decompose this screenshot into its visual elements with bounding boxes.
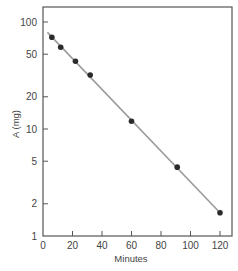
y-axis-title: A (mg) [10, 110, 21, 138]
y-tick-label: 10 [26, 124, 38, 135]
data-point [58, 45, 64, 51]
data-point [87, 72, 93, 78]
y-tick-label: 100 [20, 17, 37, 28]
x-tick-label: 20 [67, 240, 79, 251]
y-tick-label: 1 [31, 231, 37, 242]
data-point [129, 119, 135, 125]
x-tick-label: 100 [182, 240, 199, 251]
x-tick-label: 0 [40, 240, 46, 251]
y-tick-label: 50 [26, 49, 38, 60]
x-axis: 020406080100120 [40, 231, 229, 251]
x-tick-label: 40 [96, 240, 108, 251]
y-axis: 125102050100 [20, 17, 48, 242]
data-point [217, 210, 223, 216]
plot-series [47, 32, 222, 215]
plot-border [43, 7, 232, 236]
x-axis-title: Minutes [114, 253, 148, 264]
y-tick-label: 20 [26, 91, 38, 102]
y-tick-label: 2 [31, 198, 37, 209]
data-point [49, 34, 55, 40]
x-tick-label: 60 [126, 240, 138, 251]
data-point [174, 164, 180, 170]
chart: 125102050100 020406080100120 Minutes A (… [0, 0, 238, 271]
plot-frame [43, 7, 232, 236]
x-tick-label: 80 [155, 240, 167, 251]
data-point [73, 58, 79, 64]
x-tick-label: 120 [212, 240, 229, 251]
y-tick-label: 5 [31, 156, 37, 167]
